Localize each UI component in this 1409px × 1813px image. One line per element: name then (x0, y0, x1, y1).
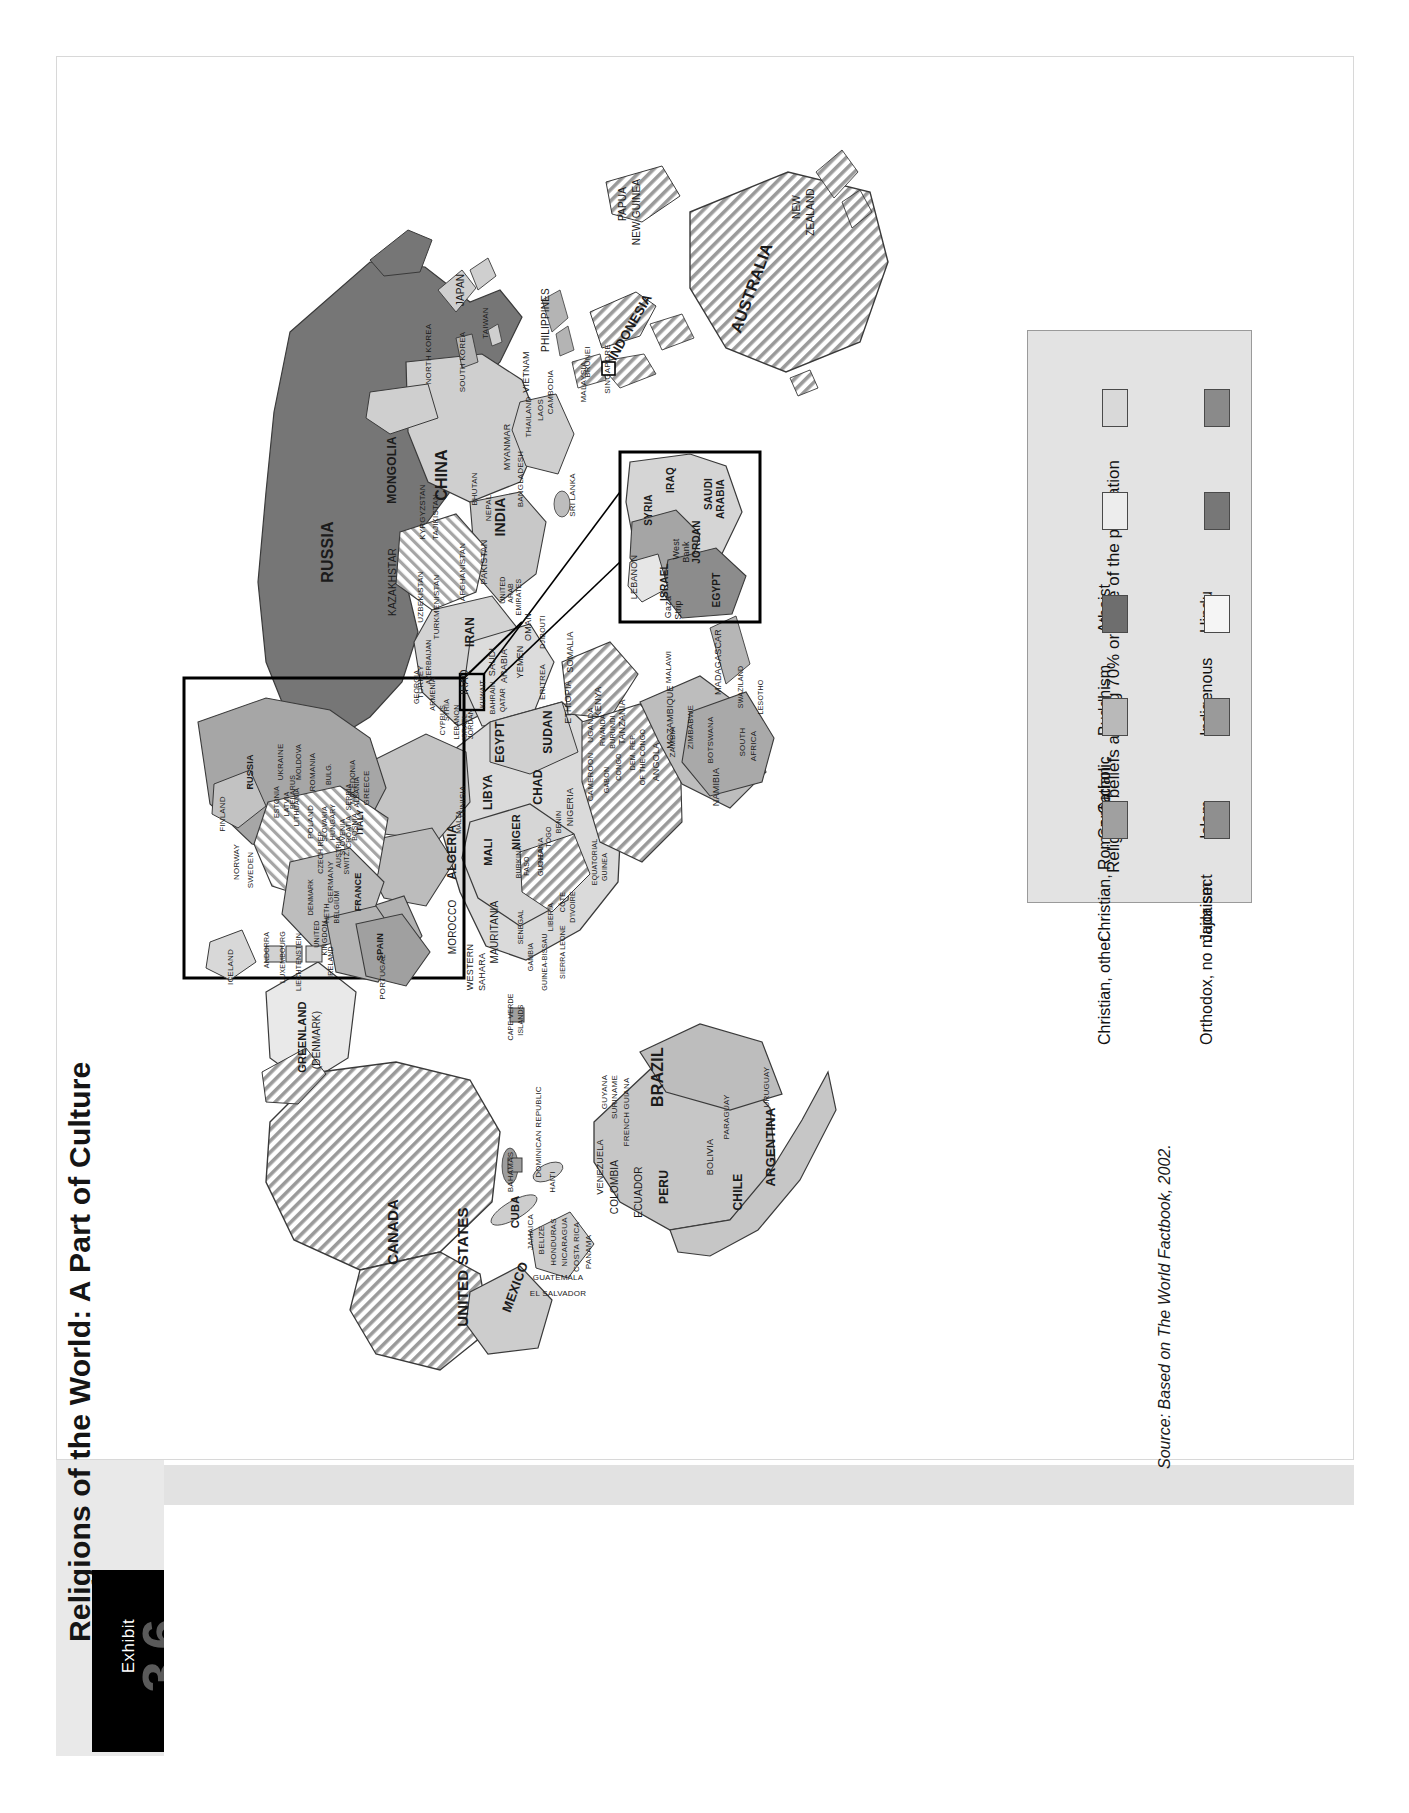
map-label: GUINEA-BISSAU (541, 933, 548, 990)
map-label: IRAQ (665, 467, 676, 493)
map-label: TAJIKISTAN (431, 494, 440, 540)
map-label: DENMARK (307, 879, 314, 915)
map-label: BOLIVIA (705, 1139, 715, 1175)
map-label: BOTSWANA (706, 716, 715, 763)
map-label: IRAQ (459, 669, 470, 694)
map-label: NEW GUINEA (631, 179, 642, 245)
map-label: TANZANIA (617, 699, 627, 744)
map-label: KYRGYZSTAN (418, 484, 427, 540)
map-label: GREECE (362, 771, 371, 806)
map-label: CONGO (615, 753, 622, 780)
map-label: BENIN (555, 811, 562, 833)
map-label: Bank (681, 541, 691, 562)
map-label: SOUTH (738, 728, 747, 757)
map-label: ISLANDS (517, 1004, 524, 1035)
legend-item-label: Orthodox, no major sect (1198, 815, 1216, 1045)
map-label: DEM. REP. (629, 734, 636, 771)
map-label: PAKISTAN (479, 540, 489, 585)
map-label: ARAB (507, 583, 514, 603)
map-label: LAOS (536, 399, 545, 421)
map-label: HONDURAS (549, 1218, 558, 1265)
map-label: CHILE (731, 1174, 745, 1211)
map-label: CAPE VERDE (507, 993, 514, 1040)
map-label: TURKEY (416, 665, 425, 699)
legend-item: Christian, other (1036, 771, 1132, 867)
map-label: PORTUGAL (378, 954, 387, 999)
map-label: KAZAKHSTAR (387, 548, 398, 616)
map-label: CAMEROON (586, 753, 595, 802)
map-label: SRI LANKA (568, 473, 577, 517)
map-label: GABON (603, 767, 610, 793)
map-label: NEW (791, 195, 802, 219)
map-label: JAMAICA (526, 1214, 535, 1250)
legend-item: Orthodox, no major sect (1138, 771, 1234, 867)
map-label: SLOVAKIA (321, 806, 328, 842)
map-label: IRAN (463, 617, 477, 647)
map-label: RUSSIA (245, 754, 255, 789)
map-label: CUBA (509, 1196, 521, 1229)
map-label: COSTA RICA (572, 1222, 581, 1272)
map-label: TOGO (545, 826, 552, 847)
map-label: ICELAND (226, 949, 235, 985)
map-label: JORDAN (467, 709, 474, 739)
map-label: LEBANON (629, 555, 639, 599)
map-label: MOROCCO (447, 900, 458, 955)
map-label: MYANMAR (502, 424, 512, 471)
map-label: RWANDA (599, 714, 606, 746)
legend-item: Islam (1138, 565, 1234, 661)
map-label: NORWAY (232, 844, 241, 880)
map-label: GUINEA (537, 848, 544, 876)
map-label: BULG. (325, 763, 332, 785)
map-label: SOUTH KOREA (458, 332, 467, 392)
map-label: SUDAN (541, 710, 555, 754)
exhibit-number: 3.6 (129, 1582, 165, 1732)
map-label: BELIZE (537, 1226, 546, 1255)
map-label: PARAGUAY (722, 1095, 731, 1140)
map-label: Strip (673, 600, 683, 620)
map-label: DJIBOUTI (539, 615, 546, 649)
world-map: CANADAUNITED STATESMEXICOGREENLAND(DENMA… (170, 62, 1345, 1452)
map-label: MALTA (455, 810, 462, 833)
exhibit-tab: Exhibit 3.6 (92, 1570, 164, 1752)
map-label: NORTH KOREA (424, 324, 433, 385)
map-label: ZEALAND (805, 188, 816, 236)
map-label: BELARUS (289, 775, 296, 809)
map-label: RUSSIA (319, 521, 337, 583)
map-label: GAMBIA (527, 943, 534, 971)
legend-column-left: AtheistBuddhismConfucianChristian, Roman… (1036, 359, 1132, 879)
legend-item: Atheist (1036, 359, 1132, 455)
map-label: SIERRA LEONE (559, 925, 566, 979)
map-label: BURKINA (515, 846, 522, 879)
map-label: CYPRUS (439, 705, 446, 735)
map-label: PAPUA (617, 187, 628, 221)
map-label: LESOTHO (757, 680, 764, 715)
map-label: LIBYA (481, 774, 495, 810)
map-label: INDIA (492, 497, 508, 536)
map-label: SWEDEN (246, 852, 255, 888)
map-label: SAHARA (477, 953, 487, 991)
legend-item: Confucian (1036, 565, 1132, 661)
legend-item: Hindu (1138, 359, 1234, 455)
map-label: West (671, 538, 681, 559)
map-label: GUYANA (600, 1075, 609, 1109)
map-label: UZBEKISTAN (416, 571, 425, 623)
map-label: BAHAMAS (506, 1152, 515, 1193)
map-label: MADAGASCAR (713, 629, 723, 695)
legend-item: Judaism (1138, 668, 1234, 764)
map-label: OF THE CONGO (639, 729, 646, 785)
map-label: SAUDI (487, 648, 497, 677)
map-label: ARABIA (715, 479, 726, 519)
map-label: MOLDOVA (295, 744, 302, 780)
page-bottom-band (164, 1465, 1354, 1505)
map-label: MALAWI (664, 651, 673, 683)
legend-item: Indigenous (1138, 462, 1234, 558)
map-label: BRAZIL (649, 1047, 667, 1107)
map-label: MONGOLIA (385, 436, 399, 504)
map-label: IRELAND (327, 946, 334, 978)
map-label: BAHRAIN (489, 682, 496, 715)
map-legend: Religious beliefs among 70% or more of t… (1027, 330, 1252, 903)
map-label: COLOMBIA (609, 1160, 620, 1214)
map-label: JORDAN (691, 520, 702, 563)
map-label: ETHIOPIA (563, 680, 573, 724)
map-label: WESTERN (465, 944, 475, 990)
